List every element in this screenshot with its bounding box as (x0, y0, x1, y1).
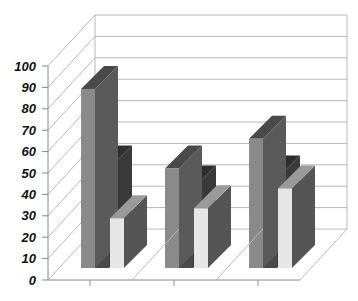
y-axis: 0102030405060708090100 (14, 59, 48, 288)
side-gridline (48, 15, 95, 66)
y-tick-label: 40 (21, 187, 37, 202)
bar-front-face (249, 139, 263, 268)
y-tick-label: 10 (22, 251, 37, 266)
y-tick-label: 100 (14, 59, 36, 74)
bar-front-face (165, 168, 179, 268)
y-tick-label: 80 (22, 101, 37, 116)
bar-front-face (278, 188, 292, 268)
y-tick-label: 0 (29, 273, 37, 288)
bar-groups (81, 66, 315, 268)
bar-front-face (194, 208, 208, 268)
y-tick-label: 70 (22, 123, 37, 138)
bar-front-face (110, 218, 124, 268)
y-tick-label: 50 (22, 166, 37, 181)
bar-group (249, 116, 315, 268)
bar-group (81, 66, 147, 268)
bar-group (165, 145, 231, 268)
y-tick-label: 90 (22, 80, 37, 95)
y-tick-label: 60 (22, 144, 37, 159)
y-tick-label: 30 (22, 208, 37, 223)
side-gridline (48, 36, 95, 87)
bar-front-face (81, 89, 95, 268)
3d-bar-chart: 0102030405060708090100 (0, 0, 358, 301)
y-tick-label: 20 (21, 230, 37, 245)
